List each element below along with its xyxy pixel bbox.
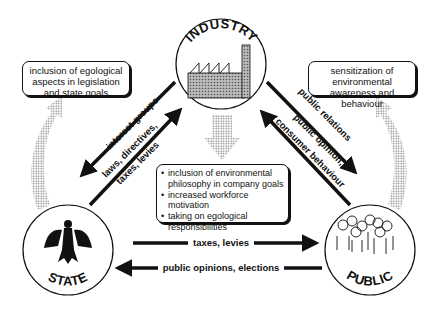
company-goal-item: inclusion of environmental philosophy in…: [161, 168, 284, 190]
label-public-opinions-elections: public opinions, elections: [163, 262, 280, 273]
dotted-feedback-arrow-left: [31, 96, 62, 210]
label-taxes-levies: taxes, levies: [193, 237, 249, 248]
public-node: PUBLIC: [325, 205, 415, 295]
state-node: STATE: [23, 205, 113, 295]
box-environmental-awareness: sensitization of environmental awareness…: [308, 61, 416, 96]
company-goal-item: increased workforce motivation: [161, 190, 284, 212]
box-state-goals-text: inclusion of egological aspects in legis…: [30, 65, 123, 98]
dotted-feedback-arrow-right: [376, 96, 407, 210]
company-goal-item: taking on egological responsibilities: [161, 211, 284, 233]
dotted-arrow-down-center: [204, 115, 240, 160]
box-company-goals: inclusion of environmental philosophy in…: [156, 164, 289, 223]
box-state-goals: inclusion of egological aspects in legis…: [22, 61, 130, 96]
diagram-canvas: INDUSTRY STATE PUBLIC: [0, 0, 441, 313]
industry-node: INDUSTRY: [176, 16, 266, 109]
